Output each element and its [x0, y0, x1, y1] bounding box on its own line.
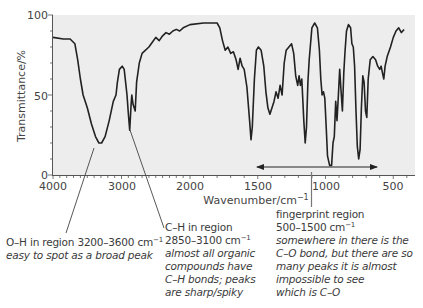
plot-background [53, 15, 415, 175]
y-tick-label-100: 100 [27, 9, 48, 22]
ch-annotation-note-3: C–H bonds; peaks [165, 273, 255, 286]
oh-annotation: O–H in region 3200–3600 cm−1 easy to spo… [6, 236, 163, 262]
oh-annotation-note: easy to spot as a broad peak [6, 249, 163, 262]
ch-annotation: C–H in region 2850–3100 cm−1 almost all … [165, 221, 255, 299]
x-tick-label-500: 500 [383, 180, 404, 193]
fingerprint-annotation-title: fingerprint region [276, 208, 413, 221]
x-axis-title: Wavenumber/cm−1 [203, 193, 308, 207]
oh-annotation-title: O–H in region 3200–3600 cm−1 [6, 236, 163, 249]
x-tick-label-1500: 1500 [244, 180, 272, 193]
y-tick-label-50: 50 [34, 90, 48, 103]
ch-annotation-range: 2850–3100 cm−1 [165, 234, 255, 247]
ch-annotation-title: C–H in region [165, 221, 255, 234]
ch-annotation-note-1: almost all organic [165, 247, 255, 260]
ch-annotation-note-2: compounds have [165, 260, 255, 273]
fingerprint-annotation-note-4: impossible to see [276, 273, 413, 286]
fingerprint-annotation: fingerprint region 500–1500 cm−1 somewhe… [276, 208, 413, 299]
x-tick-label-1000: 1000 [312, 180, 340, 193]
x-tick-label-4000: 4000 [39, 180, 67, 193]
fingerprint-annotation-note-2: C–O bond, but there are so [276, 247, 413, 260]
x-tick-label-3000: 3000 [108, 180, 136, 193]
x-tick-label-2000: 2000 [176, 180, 204, 193]
fingerprint-annotation-note-3: many peaks it is almost [276, 260, 413, 273]
fingerprint-annotation-note-5: which is C–O [276, 286, 413, 299]
fingerprint-annotation-note-1: somewhere in there is the [276, 234, 413, 247]
y-axis-title: Transmittance/% [15, 50, 28, 143]
fingerprint-annotation-range: 500–1500 cm−1 [276, 221, 413, 234]
ch-annotation-note-4: are sharp/spiky [165, 286, 255, 299]
